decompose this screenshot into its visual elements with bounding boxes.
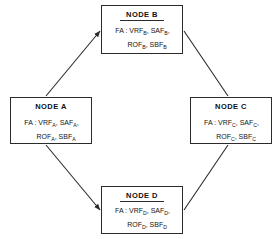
node-d-line-2: ROFD, SBFD (114, 219, 170, 233)
node-b-title: NODE B (126, 10, 158, 19)
node-c-line2-prefix: ROF (216, 133, 231, 140)
node-b-body: FA : VRFB, SAFB, ROFB, SBFB (114, 25, 169, 53)
node-d-line1-mid: , SAF (147, 207, 165, 214)
node-a-line2-prefix: ROF (36, 133, 51, 140)
node-b-line-2: ROFB, SBFB (114, 39, 169, 53)
edge-node-a-to-node-b (46, 31, 100, 96)
node-d-body: FA : VRFD, SAFD, ROFD, SBFD (114, 205, 170, 233)
edge-node-a-to-node-d (46, 145, 100, 210)
node-a-title: NODE A (35, 102, 67, 111)
node-d-line2-mid: , SBF (146, 221, 164, 228)
node-c-body: FA : VRFC, SAFC, ROFC, SBFC (203, 117, 259, 145)
node-a-line1-prefix: FA : VRF (24, 119, 52, 126)
edge-node-b-to-node-c (184, 31, 228, 96)
node-b-title-rule (120, 20, 164, 21)
node-c-title: NODE C (215, 102, 247, 111)
node-box-a[interactable]: NODE A FA : VRFA, SAFA, ROFA, SBFA (10, 97, 92, 144)
node-c-line-2: ROFC, SBFC (203, 131, 259, 145)
node-c-line2-sub2: C (252, 136, 256, 142)
node-a-line2-mid: , SBF (55, 133, 73, 140)
node-d-line1-suffix: , (168, 207, 170, 214)
node-c-line1-suffix: , (257, 119, 259, 126)
node-c-line2-mid: , SBF (235, 133, 253, 140)
diagram-canvas: NODE B FA : VRFB, SAFB, ROFB, SBFB NODE … (0, 0, 276, 239)
node-b-line-1: FA : VRFB, SAFB, (114, 25, 169, 39)
node-a-line-2: ROFA, SBFA (23, 131, 78, 145)
node-b-line1-suffix: , (168, 27, 170, 34)
node-a-body: FA : VRFA, SAFA, ROFA, SBFA (23, 117, 78, 145)
node-b-line2-sub2: B (163, 44, 166, 50)
node-d-line-1: FA : VRFD, SAFD, (114, 205, 170, 219)
node-box-c[interactable]: NODE C FA : VRFC, SAFC, ROFC, SBFC (190, 97, 272, 144)
node-b-line2-mid: , SBF (146, 41, 164, 48)
edge-node-c-to-node-d (184, 145, 228, 210)
node-d-line1-prefix: FA : VRF (115, 207, 143, 214)
node-c-line-1: FA : VRFC, SAFC, (203, 117, 259, 131)
node-b-line2-prefix: ROF (127, 41, 142, 48)
node-box-d[interactable]: NODE D FA : VRFD, SAFD, ROFD, SBFD (101, 186, 183, 234)
node-d-title: NODE D (126, 191, 158, 200)
node-a-line1-mid: , SAF (56, 119, 74, 126)
node-c-line1-mid: , SAF (236, 119, 254, 126)
node-box-b[interactable]: NODE B FA : VRFB, SAFB, ROFB, SBFB (101, 5, 183, 54)
node-d-line2-prefix: ROF (127, 221, 142, 228)
node-c-line1-prefix: FA : VRF (204, 119, 232, 126)
node-b-line1-prefix: FA : VRF (115, 27, 143, 34)
node-a-line-1: FA : VRFA, SAFA, (23, 117, 78, 131)
node-a-line1-suffix: , (77, 119, 79, 126)
node-b-line1-mid: , SAF (147, 27, 165, 34)
node-d-line2-sub2: D (163, 224, 167, 230)
node-a-line2-sub2: A (72, 136, 75, 142)
